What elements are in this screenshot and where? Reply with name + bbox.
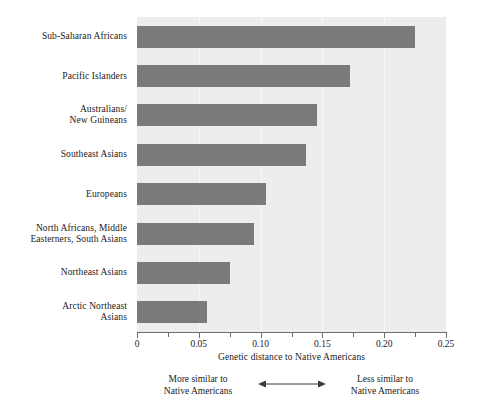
category-label: Southeast Asians [0, 149, 127, 160]
bar [137, 144, 306, 166]
category-label-line: Australians/ [0, 104, 127, 115]
double-arrow-icon [258, 378, 326, 390]
x-axis-tick-label: 0.25 [424, 339, 468, 349]
category-label: Australians/New Guineans [0, 104, 127, 126]
bar-chart-figure: Sub-Saharan AfricansPacific IslandersAus… [0, 0, 478, 420]
annotation-left-line2: Native Americans [137, 386, 259, 398]
bar [137, 26, 415, 48]
category-label-line: Sub-Saharan Africans [0, 31, 127, 42]
x-axis-tick-major [384, 332, 385, 338]
bar [137, 104, 317, 126]
x-axis-tick-label: 0.15 [300, 339, 344, 349]
x-axis-tick-major [261, 332, 262, 338]
x-axis-tick-label: 0.10 [239, 339, 283, 349]
annotation-left: More similar to Native Americans [137, 374, 259, 397]
x-axis-tick-major [137, 332, 138, 338]
bar [137, 223, 254, 245]
category-label-line: Southeast Asians [0, 149, 127, 160]
category-label-line: Pacific Islanders [0, 71, 127, 82]
category-label: Sub-Saharan Africans [0, 31, 127, 42]
category-label: Arctic NortheastAsians [0, 301, 127, 323]
category-label-line: New Guineans [0, 115, 127, 126]
bar [137, 65, 350, 87]
bar [137, 183, 266, 205]
x-axis-tick-minor [292, 332, 293, 337]
gridline [384, 17, 385, 332]
x-axis-title: Genetic distance to Native Americans [137, 352, 446, 362]
category-label-line: Easterners, South Asians [0, 234, 127, 245]
plot-area [137, 17, 446, 332]
x-axis-tick-major [446, 332, 447, 338]
x-axis-tick-minor [168, 332, 169, 337]
category-axis-labels: Sub-Saharan AfricansPacific IslandersAus… [0, 17, 132, 332]
bar [137, 262, 230, 284]
x-axis-tick-minor [353, 332, 354, 337]
x-axis-tick-label: 0 [115, 339, 159, 349]
bar [137, 301, 207, 323]
category-label: Europeans [0, 189, 127, 200]
category-label-line: Asians [0, 312, 127, 323]
category-label-line: Europeans [0, 189, 127, 200]
annotation-right: Less similar to Native Americans [324, 374, 446, 397]
category-label: Northeast Asians [0, 267, 127, 278]
x-axis-tick-major [322, 332, 323, 338]
x-axis-tick-minor [415, 332, 416, 337]
category-label: North Africans, MiddleEasterners, South … [0, 223, 127, 245]
category-label-line: North Africans, Middle [0, 223, 127, 234]
x-axis-tick-label: 0.05 [177, 339, 221, 349]
x-axis-tick-label: 0.20 [362, 339, 406, 349]
x-axis-tick-major [199, 332, 200, 338]
category-label-line: Arctic Northeast [0, 301, 127, 312]
direction-annotation: More similar to Native Americans Less si… [137, 374, 446, 404]
category-label-line: Northeast Asians [0, 267, 127, 278]
category-label: Pacific Islanders [0, 71, 127, 82]
annotation-right-line1: Less similar to [324, 374, 446, 386]
annotation-left-line1: More similar to [137, 374, 259, 386]
x-axis-tick-minor [230, 332, 231, 337]
annotation-right-line2: Native Americans [324, 386, 446, 398]
